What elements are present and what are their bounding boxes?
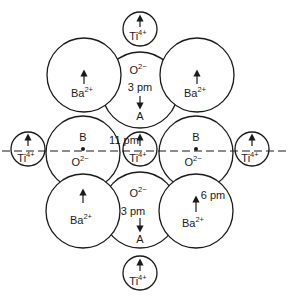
site-label-a: A [136,110,144,122]
barium-ion-bottom-right: 6 pm Ba2+ [159,174,233,248]
titanium-ion-right: Ti4+ [235,132,269,166]
barium-ion-top-right: Ba2+ [160,38,234,112]
barium-ion-top-left: Ba2+ [47,38,121,112]
site-label-b: B [192,131,199,143]
titanium-ion-bottom: Ti4+ [123,256,157,290]
displacement-label-ti: 11 pm [109,134,139,146]
site-label-a: A [136,233,144,245]
titanium-ion-top: Ti4+ [123,12,157,46]
displacement-label: 3 pm [121,205,145,217]
displacement-label: 6 pm [201,189,225,201]
batio3-structure-diagram: B O2− B O2− O2− 3 pm A O2− 3 pm A Ba2+ B… [0,0,288,300]
titanium-ion-left: Ti4+ [11,132,45,166]
barium-ion-bottom-left: Ba2+ [46,174,120,248]
site-label-b: B [79,131,86,143]
displacement-label: 3 pm [128,81,152,93]
